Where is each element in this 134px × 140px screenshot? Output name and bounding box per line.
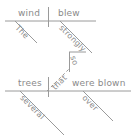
sentence-diagram: wind blew The strongly so that trees wer… [0,0,134,140]
word-wind: wind [18,9,40,18]
word-trees: trees [18,79,42,88]
word-blew: blew [58,9,80,18]
diagram-lines [0,0,134,140]
word-were-blown: were blown [72,79,126,88]
